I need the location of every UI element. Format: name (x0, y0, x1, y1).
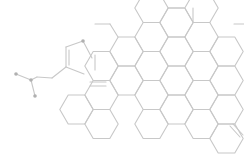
hexagon-ring (135, 0, 168, 23)
bond-line (66, 67, 84, 74)
bond-line (230, 126, 240, 137)
hexagon-ring (160, 8, 193, 37)
hexagon-ring (85, 110, 118, 139)
hexagon-ring (210, 37, 243, 66)
hexagon-ring (85, 52, 118, 81)
hexagon-ring (135, 81, 168, 110)
hexagon-ring (110, 66, 143, 95)
bond-line (37, 77, 52, 78)
atom-dot (14, 72, 18, 76)
hexagon-ring (210, 124, 243, 153)
hexagon-ring (185, 0, 218, 23)
bond-line (66, 41, 83, 47)
atom-dot (33, 94, 37, 98)
hexagon-ring (185, 81, 218, 110)
heteroatom-dots (14, 39, 85, 98)
hexagon-ring (135, 110, 168, 139)
hexagon-ring (60, 95, 93, 124)
aromatic-ring-grid (60, 0, 243, 153)
chemical-structure-diagram (0, 0, 244, 157)
bond-line (16, 74, 31, 80)
hexagon-ring (185, 110, 218, 139)
bond-line (52, 67, 66, 78)
hexagon-ring (160, 95, 193, 124)
hexagon-ring (160, 66, 193, 95)
atom-dot (29, 78, 33, 82)
hexagon-ring (135, 52, 168, 81)
bond-line (31, 80, 35, 96)
hexagon-ring (185, 23, 218, 52)
hexagon-ring (110, 37, 143, 66)
bond-lines (16, 8, 244, 137)
bond-line (110, 24, 118, 37)
bond-line (83, 41, 92, 58)
bond-line (233, 124, 243, 135)
hexagon-ring (185, 52, 218, 81)
hexagon-ring (210, 66, 243, 95)
atom-dot (81, 39, 85, 43)
hexagon-ring (210, 95, 243, 124)
hexagon-ring (85, 81, 118, 110)
hexagon-ring (135, 23, 168, 52)
hexagon-ring (160, 37, 193, 66)
